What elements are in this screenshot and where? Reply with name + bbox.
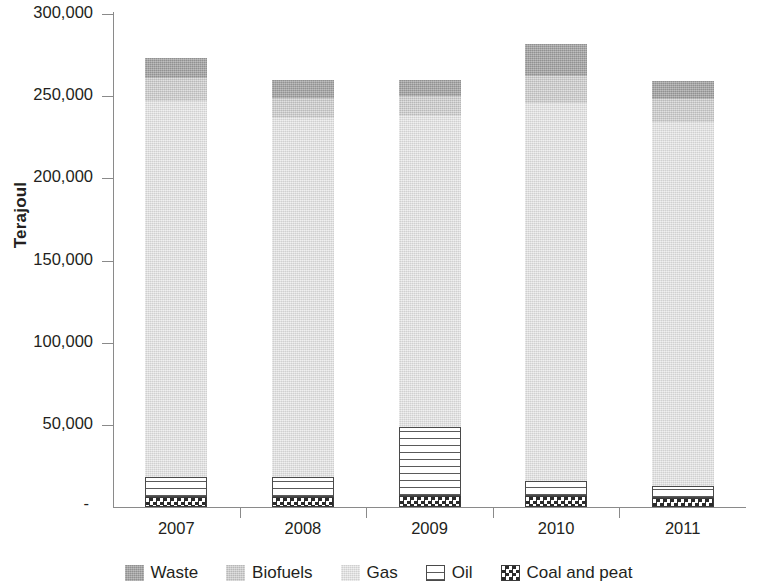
gas-swatch xyxy=(341,565,360,581)
bar-segment-biofuels[interactable] xyxy=(145,78,207,101)
legend-label: Oil xyxy=(452,563,473,583)
legend-label: Coal and peat xyxy=(527,563,633,583)
bar-2011[interactable] xyxy=(652,81,714,507)
bar-segment-oil[interactable] xyxy=(399,427,461,496)
legend-label: Biofuels xyxy=(252,563,312,583)
legend-item-gas[interactable]: Gas xyxy=(341,563,398,583)
y-axis-tick-label: 150,000 xyxy=(33,250,93,269)
x-axis-tick-label: 2008 xyxy=(240,519,367,538)
bar-segment-gas[interactable] xyxy=(145,101,207,477)
y-axis-tick-label: 100,000 xyxy=(33,332,93,351)
y-axis-tick-label: 300,000 xyxy=(33,3,93,22)
x-axis-line xyxy=(113,507,746,508)
x-axis-tick-label: 2007 xyxy=(113,519,240,538)
y-axis-tick-label: 50,000 xyxy=(43,414,93,433)
legend-label: Waste xyxy=(151,563,199,583)
coal-and-peat-swatch xyxy=(501,565,520,581)
chart-legend: WasteBiofuelsGasOilCoal and peat xyxy=(0,558,757,588)
y-axis-tick-label: - xyxy=(84,494,90,513)
bar-segment-biofuels[interactable] xyxy=(272,98,334,118)
bar-2008[interactable] xyxy=(272,80,334,507)
bar-2007[interactable] xyxy=(145,58,207,507)
y-axis-tick-mark xyxy=(102,261,113,262)
legend-item-oil[interactable]: Oil xyxy=(426,563,473,583)
y-axis-tick-mark xyxy=(102,425,113,426)
oil-swatch xyxy=(426,565,445,581)
bar-segment-biofuels[interactable] xyxy=(525,76,587,102)
bar-segment-coal-and-peat[interactable] xyxy=(525,496,587,507)
y-axis-tick-label: 250,000 xyxy=(33,85,93,104)
bar-2010[interactable] xyxy=(525,44,587,507)
bar-segment-coal-and-peat[interactable] xyxy=(652,498,714,507)
bar-segment-waste[interactable] xyxy=(525,44,587,77)
stacked-bar-chart: Terajoul -50,000100,000150,000200,000250… xyxy=(0,0,757,588)
legend-label: Gas xyxy=(367,563,398,583)
x-axis-tick-label: 2011 xyxy=(619,519,746,538)
x-axis-tick-label: 2010 xyxy=(493,519,620,538)
x-axis-tick-mark xyxy=(619,507,620,518)
y-axis-tick-mark xyxy=(102,178,113,179)
bar-segment-waste[interactable] xyxy=(272,80,334,98)
x-axis-tick-mark xyxy=(366,507,367,518)
y-axis-line xyxy=(113,12,114,508)
x-axis-tick-label: 2009 xyxy=(366,519,493,538)
y-axis-title: Terajoul xyxy=(11,170,31,260)
bar-segment-biofuels[interactable] xyxy=(399,96,461,116)
bar-segment-coal-and-peat[interactable] xyxy=(272,497,334,507)
bar-segment-oil[interactable] xyxy=(272,477,334,498)
bar-segment-coal-and-peat[interactable] xyxy=(145,497,207,507)
legend-item-coal-and-peat[interactable]: Coal and peat xyxy=(501,563,633,583)
bar-segment-oil[interactable] xyxy=(145,477,207,497)
bar-segment-gas[interactable] xyxy=(272,118,334,477)
y-axis-tick-mark xyxy=(102,343,113,344)
bar-2009[interactable] xyxy=(399,80,461,507)
legend-item-waste[interactable]: Waste xyxy=(125,563,199,583)
bar-segment-coal-and-peat[interactable] xyxy=(399,496,461,507)
bar-segment-oil[interactable] xyxy=(525,481,587,497)
bar-segment-oil[interactable] xyxy=(652,486,714,498)
x-axis-tick-mark xyxy=(240,507,241,518)
waste-swatch xyxy=(125,565,144,581)
bar-segment-waste[interactable] xyxy=(652,81,714,100)
legend-item-biofuels[interactable]: Biofuels xyxy=(226,563,312,583)
bar-segment-gas[interactable] xyxy=(652,122,714,486)
bar-segment-biofuels[interactable] xyxy=(652,99,714,122)
bar-segment-gas[interactable] xyxy=(525,103,587,481)
bar-segment-waste[interactable] xyxy=(399,80,461,96)
y-axis-tick-mark xyxy=(102,96,113,97)
x-axis-tick-mark xyxy=(493,507,494,518)
biofuels-swatch xyxy=(226,565,245,581)
y-axis-tick-mark xyxy=(102,14,113,15)
bar-segment-gas[interactable] xyxy=(399,116,461,427)
y-axis-tick-label: 200,000 xyxy=(33,167,93,186)
bar-segment-waste[interactable] xyxy=(145,58,207,78)
